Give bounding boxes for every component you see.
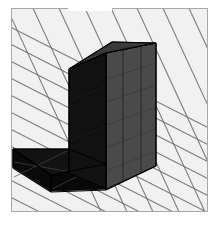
figure-canvas	[0, 0, 219, 226]
column-front-face	[69, 53, 106, 189]
scene-content	[12, 9, 207, 211]
isometric-drawing-frame	[11, 8, 208, 212]
white-notch-top	[68, 0, 112, 11]
isometric-scene	[12, 9, 207, 211]
